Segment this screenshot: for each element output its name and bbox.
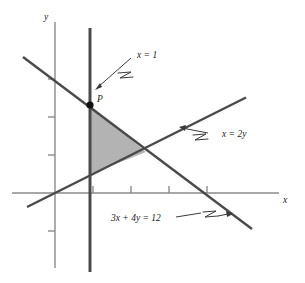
point-p-marker [86, 101, 93, 108]
x-equals-1-label: x = 1 [136, 50, 157, 60]
y-axis-label: y [43, 12, 49, 22]
point-p-label: P [96, 94, 103, 104]
x-equals-2y-label: x = 2y [221, 129, 247, 139]
three-x-four-y-label: 3x + 4y = 12 [110, 213, 161, 223]
math-diagram: P x = 1 x = 2y 3x + 4y = 12 y x [0, 0, 305, 283]
diagram-background [0, 0, 305, 283]
x-axis-label: x [282, 195, 288, 205]
